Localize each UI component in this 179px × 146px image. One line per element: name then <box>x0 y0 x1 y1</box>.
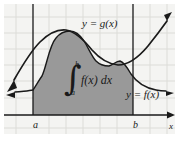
plot-area: ∫ b a f(x) dx y = g(x) y = f(x) a b x <box>4 4 175 134</box>
integral-upper-limit: b <box>75 60 79 69</box>
x-axis-label: x <box>169 122 173 131</box>
curve-f-arrow-left <box>6 92 15 98</box>
integral-lower-limit: a <box>71 88 75 97</box>
x-tick-label-a: a <box>33 120 38 130</box>
curve-f-label: y = f(x) <box>126 89 159 100</box>
integral-integrand: f(x) dx <box>81 73 112 88</box>
integral-figure: ∫ b a f(x) dx y = g(x) y = f(x) a b x <box>0 0 179 146</box>
x-axis-arrowhead <box>167 112 175 119</box>
curve-g-label: y = g(x) <box>82 18 118 29</box>
curve-f-arrow-right <box>166 91 174 96</box>
x-tick-label-b: b <box>133 120 138 130</box>
